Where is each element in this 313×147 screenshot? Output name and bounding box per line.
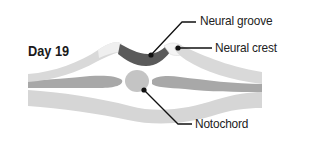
neural-crest-dot bbox=[175, 45, 180, 50]
notochord-dot bbox=[141, 87, 146, 92]
notochord-label: Notochord bbox=[195, 116, 248, 131]
neural-fold-left-rim bbox=[98, 42, 122, 58]
neural-groove-dot bbox=[148, 52, 153, 57]
neural-groove-label: Neural groove bbox=[200, 13, 272, 28]
embryo-cross-section-diagram: Day 19 Neural groove Neural crest Notoch… bbox=[0, 0, 313, 147]
neural-groove-shape bbox=[118, 44, 170, 66]
neural-crest-label: Neural crest bbox=[215, 40, 277, 55]
stage-label: Day 19 bbox=[28, 42, 69, 59]
